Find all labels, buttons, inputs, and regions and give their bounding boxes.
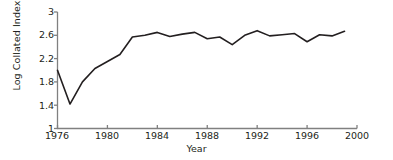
chart-plot-area (0, 0, 393, 160)
axis-lines (57, 12, 357, 129)
data-line-log-collated-index (58, 31, 345, 104)
chart-container: Log Collated Index Year 3 2.6 2.2 1.8 1.… (0, 0, 393, 160)
